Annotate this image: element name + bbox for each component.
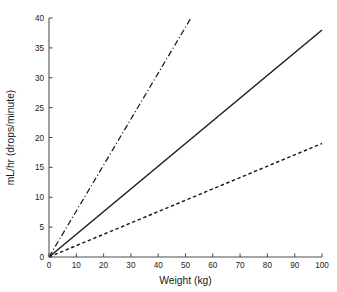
y-tick-label: 30 [35,74,45,83]
chart-figure: 0102030405060708090100 0510152025303540 … [0,0,337,292]
x-tick-label: 100 [315,261,329,270]
x-tick-label: 50 [181,261,191,270]
x-tick-label: 60 [208,261,218,270]
chart-background [0,0,337,292]
y-tick-label: 15 [35,163,45,172]
x-tick-label: 10 [72,261,82,270]
y-tick-label: 5 [39,223,44,232]
x-tick-label: 30 [126,261,136,270]
y-tick-label: 20 [35,134,45,143]
x-tick-label: 80 [263,261,273,270]
y-tick-label: 40 [35,14,45,23]
chart-canvas: 0102030405060708090100 0510152025303540 … [0,0,337,292]
y-tick-label: 10 [35,193,45,202]
x-tick-label: 20 [99,261,109,270]
y-tick-label: 35 [35,44,45,53]
y-tick-label: 0 [39,253,44,262]
x-tick-label: 0 [47,261,52,270]
y-tick-label: 25 [35,104,45,113]
x-tick-label: 40 [154,261,164,270]
x-tick-label: 90 [290,261,300,270]
x-axis-title: Weight (kg) [159,275,211,286]
x-tick-label: 70 [236,261,246,270]
y-axis-title: mL/hr (drops/minute) [5,90,16,186]
